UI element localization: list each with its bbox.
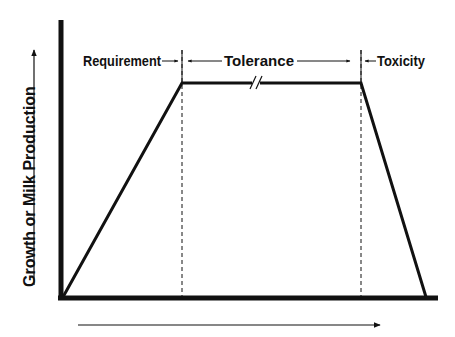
toxicity-label: Toxicity bbox=[377, 52, 426, 69]
response-diagram: Growth or Milk Production Requirement To… bbox=[0, 0, 455, 337]
tolerance-label: Tolerance bbox=[224, 52, 294, 69]
response-curve bbox=[63, 83, 426, 297]
y-axis-label: Growth or Milk Production bbox=[21, 86, 38, 287]
requirement-label: Requirement bbox=[83, 52, 161, 69]
